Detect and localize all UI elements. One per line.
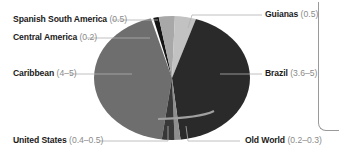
label-guianas: Guianas (0.5) bbox=[265, 9, 318, 19]
label-central-america: Central America (0.2) bbox=[13, 32, 97, 42]
label-united-states: United States (0.4–0.5) bbox=[13, 135, 103, 145]
label-brazil: Brazil (3.6–5) bbox=[265, 68, 317, 78]
label-old-world: Old World (0.2–0.3) bbox=[245, 135, 322, 145]
label-caribbean: Caribbean (4–5) bbox=[13, 68, 77, 78]
label-spanish-south-america: Spanish South America (0.5) bbox=[13, 14, 127, 24]
